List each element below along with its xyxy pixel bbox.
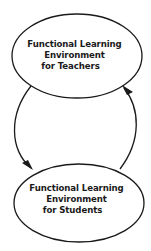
node-teachers-line-2: Environment bbox=[0, 50, 150, 61]
node-students-label: Functional Learning Environment for Stud… bbox=[1, 183, 151, 216]
node-students-line-1: Functional Learning bbox=[1, 183, 151, 194]
edge-teachers-to-students bbox=[14, 86, 31, 168]
arrowhead-down-icon bbox=[22, 160, 33, 170]
edge-students-to-teachers bbox=[120, 88, 136, 169]
arrowhead-up-icon bbox=[122, 85, 133, 95]
node-students-line-2: Environment bbox=[1, 194, 151, 205]
node-teachers-line-3: for Teachers bbox=[0, 61, 150, 72]
node-teachers-label: Functional Learning Environment for Teac… bbox=[0, 39, 150, 72]
node-students-line-3: for Students bbox=[1, 205, 151, 216]
node-teachers-line-1: Functional Learning bbox=[0, 39, 150, 50]
